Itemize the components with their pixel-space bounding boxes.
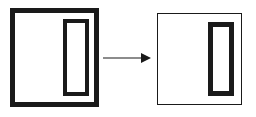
source-outer-square — [10, 8, 99, 107]
result-inner-vertical-rectangle — [208, 22, 234, 96]
result-outer-square — [157, 13, 242, 105]
arrow-head — [141, 53, 151, 63]
diagram-canvas — [0, 0, 256, 117]
transformation-arrow — [103, 50, 151, 66]
source-inner-vertical-rectangle — [63, 19, 89, 96]
rightwards-arrow-icon — [103, 50, 155, 66]
